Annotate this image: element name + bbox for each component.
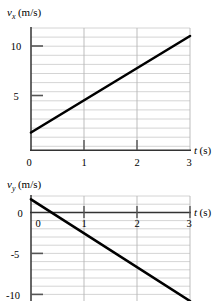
- vx-data-line: [31, 36, 190, 133]
- vy-xtick-label-3: 3: [186, 218, 191, 229]
- vy-data-line: [31, 199, 190, 301]
- chart-vy-vs-t: vy(m/s) t(s) 0 -5 -10 0 1 2 3: [6, 178, 212, 301]
- vx-xtick-label-1: 1: [81, 157, 86, 168]
- vy-x-axis-label: t(s): [194, 206, 212, 219]
- vx-y-ticks: [31, 46, 43, 96]
- vx-xtick-label-3: 3: [186, 157, 191, 168]
- vx-x-ticks: [84, 140, 137, 150]
- vy-xtick-label-0: 0: [35, 218, 40, 229]
- vy-ytick-label-0: 0: [17, 208, 22, 219]
- vx-axis-label: vx(m/s): [7, 6, 42, 21]
- vy-axis-label: vy(m/s): [7, 178, 42, 193]
- vx-x-axis-label-unit: (s): [200, 144, 212, 157]
- chart-vx-vs-t: vx(m/s) t(s) 5 10 0 1 2 3: [7, 6, 212, 168]
- vx-ytick-label-10: 10: [11, 41, 22, 52]
- vy-xtick-label-2: 2: [134, 218, 139, 229]
- vx-axis-label-sub: x: [11, 12, 16, 21]
- vy-ytick-label-minus10: -10: [6, 290, 20, 301]
- vy-x-axis-label-base: t: [194, 206, 198, 218]
- vx-x-axis-label: t(s): [194, 144, 212, 157]
- vy-horizontal-gridlines: [31, 196, 190, 294]
- vy-y-ticks: [31, 253, 43, 294]
- vy-ytick-label-minus5: -5: [11, 249, 20, 260]
- vy-axis-label-sub: y: [11, 184, 16, 193]
- vx-ytick-label-5: 5: [13, 91, 18, 102]
- vx-horizontal-gridlines: [31, 28, 190, 146]
- vx-xtick-label-2: 2: [134, 157, 139, 168]
- figure-velocity-graphs: vx(m/s) t(s) 5 10 0 1 2 3: [0, 0, 224, 301]
- vx-x-axis-label-base: t: [194, 144, 198, 156]
- vy-x-axis-label-unit: (s): [200, 206, 212, 219]
- vx-xtick-label-0: 0: [26, 157, 31, 168]
- vy-xtick-label-1: 1: [81, 218, 86, 229]
- velocity-graphs-svg: vx(m/s) t(s) 5 10 0 1 2 3: [0, 0, 224, 301]
- vy-axis-label-unit: (m/s): [18, 178, 42, 191]
- vx-axis-label-unit: (m/s): [18, 6, 42, 19]
